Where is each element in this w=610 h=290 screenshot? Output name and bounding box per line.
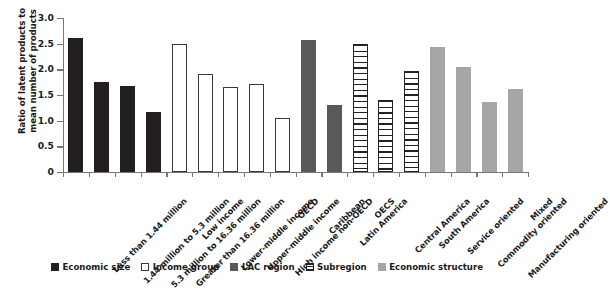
legend-item[interactable]: LAC region [230,262,294,272]
bar[interactable] [120,86,135,172]
legend-item-label: Subregion [317,262,367,272]
x-axis-tick [192,172,193,177]
bar[interactable] [508,89,523,172]
x-axis-tick [141,172,142,177]
x-axis-tick [399,172,400,177]
x-axis-tick [347,172,348,177]
x-axis-tick [218,172,219,177]
bar[interactable] [198,74,213,172]
legend-item-label: LAC region [242,262,295,272]
bar[interactable] [378,100,393,172]
x-axis-tick [476,172,477,177]
x-axis-tick [270,172,271,177]
y-axis-tick-label: 1.5 [38,89,54,100]
legend-item[interactable]: Subregion [306,262,367,272]
x-axis-tick [502,172,503,177]
y-axis-tick-label: 3.0 [38,12,54,23]
bar[interactable] [482,102,497,172]
legend-item-label: Income group [153,262,220,272]
legend-swatch-icon [230,263,238,271]
bar[interactable] [146,112,161,172]
bar[interactable] [249,84,264,172]
x-axis-tick [115,172,116,177]
x-axis-tick [321,172,322,177]
legend-swatch-icon [51,263,59,271]
plot-area: 00.51.01.52.02.53.0 Less than 1.44 milli… [63,18,528,172]
legend-swatch-icon [306,263,314,271]
y-axis-tick-label: 2.5 [38,38,54,49]
legend-swatch-icon [378,263,386,271]
legend-swatch-icon [141,263,149,271]
bar[interactable] [327,105,342,172]
x-axis-tick [166,172,167,177]
bar[interactable] [430,47,445,172]
y-axis-tick-label: 2.0 [38,63,54,74]
legend-item-label: Economic structure [389,262,483,272]
bar[interactable] [275,118,290,172]
y-axis-tick-label: 1.0 [38,115,54,126]
legend-item[interactable]: Economic structure [378,262,483,272]
x-axis-tick [425,172,426,177]
x-axis-tick [373,172,374,177]
y-axis-tick-label: 0.5 [38,140,54,151]
x-axis-tick [63,172,64,177]
chart-legend: Economic sizeIncome groupLAC regionSubre… [0,262,534,272]
y-axis-line [63,18,64,172]
y-axis-tick: 2.5 [57,44,63,45]
legend-item[interactable]: Income group [141,262,219,272]
bar[interactable] [353,44,368,172]
bar[interactable] [68,38,83,172]
bar[interactable] [404,71,419,172]
y-axis-tick: 1.0 [57,121,63,122]
y-axis-title: Ratio of latent products to mean number … [17,0,39,151]
y-axis-tick: 2.0 [57,69,63,70]
bar[interactable] [456,67,471,172]
x-axis-tick [451,172,452,177]
x-axis-tick [89,172,90,177]
x-axis-tick [528,172,529,177]
legend-item-label: Economic size [62,262,130,272]
bar[interactable] [301,40,316,172]
x-axis-tick [296,172,297,177]
y-axis-tick: 3.0 [57,18,63,19]
y-axis-tick: 1.5 [57,95,63,96]
y-axis-tick: 0.5 [57,146,63,147]
bar[interactable] [223,87,238,172]
legend-item[interactable]: Economic size [51,262,130,272]
bar[interactable] [172,44,187,172]
y-axis-tick-label: 0 [48,166,54,177]
bar[interactable] [94,82,109,172]
x-axis-tick [244,172,245,177]
